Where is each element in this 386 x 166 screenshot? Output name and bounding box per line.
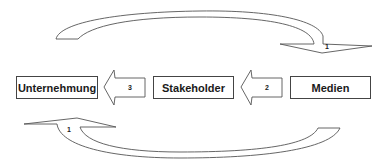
edge-label-3: 3	[128, 84, 132, 91]
curved-arrow-top: 1	[56, 11, 372, 53]
edge-label-1-bottom: 1	[67, 126, 71, 133]
node-medien: Medien	[290, 76, 371, 99]
block-arrow-2: 2	[241, 70, 282, 105]
node-unternehmung: Unternehmung	[16, 76, 98, 99]
curved-arrow-bottom: 1	[24, 118, 340, 158]
edge-label-2: 2	[265, 84, 269, 91]
diagram-canvas: 1 1 3 2 Unternehmung Stakeholder Medien	[0, 0, 386, 166]
block-arrow-3: 3	[104, 70, 145, 105]
edge-label-1-top: 1	[325, 43, 329, 50]
node-stakeholder: Stakeholder	[153, 76, 234, 99]
